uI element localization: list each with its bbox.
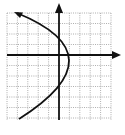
x-axis-arrow-icon <box>112 51 121 59</box>
coordinate-graph <box>0 0 125 135</box>
x-axis <box>7 51 121 59</box>
y-axis <box>55 3 63 120</box>
y-axis-arrow-icon <box>55 3 63 13</box>
